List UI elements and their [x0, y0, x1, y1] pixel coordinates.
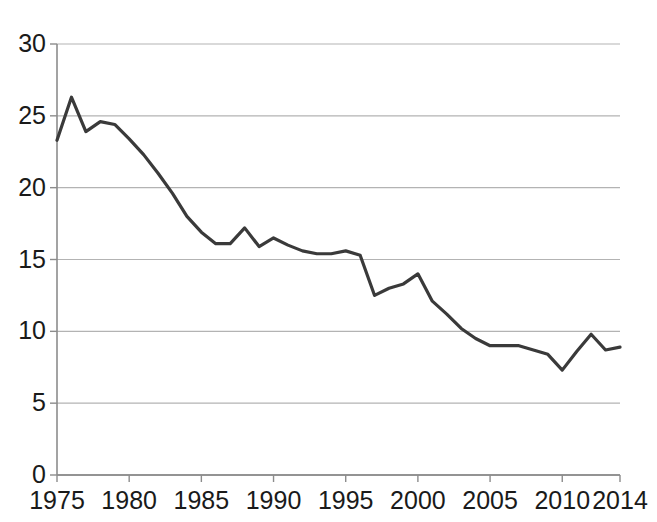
gridlines: [57, 44, 620, 475]
y-axis-tick-label: 25: [18, 103, 46, 128]
y-axis-ticks: [50, 44, 57, 475]
y-axis-tick-label: 0: [32, 462, 46, 487]
chart-canvas: [0, 0, 657, 522]
line-chart: 051015202530 197519801985199019952000200…: [0, 0, 657, 522]
y-axis-tick-label: 30: [18, 31, 46, 56]
y-axis-tick-label: 10: [18, 318, 46, 343]
y-axis-tick-label: 5: [32, 390, 46, 415]
y-axis-tick-label: 15: [18, 247, 46, 272]
data-series-line: [57, 97, 620, 370]
x-axis-ticks: [57, 475, 620, 482]
y-axis-tick-label: 20: [18, 175, 46, 200]
x-axis-tick-label: 2014: [560, 488, 657, 513]
